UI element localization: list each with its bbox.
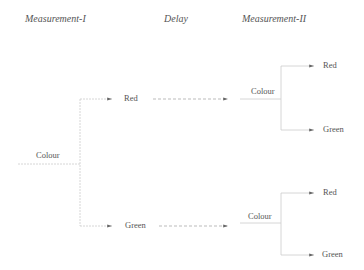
header-measurement-1: Measurement-I — [25, 13, 86, 24]
node-lower-green: Green — [322, 249, 343, 259]
node-root-colour: Colour — [36, 150, 60, 160]
node-lower-red: Red — [323, 187, 337, 197]
tree-diagram-lines — [0, 0, 364, 270]
header-measurement-2: Measurement-II — [242, 13, 306, 24]
node-upper-green: Green — [323, 124, 344, 134]
node-red: Red — [124, 93, 138, 103]
node-lower-colour: Colour — [248, 211, 272, 221]
node-green: Green — [125, 220, 146, 230]
header-delay: Delay — [164, 13, 188, 24]
node-upper-colour: Colour — [251, 86, 275, 96]
node-upper-red: Red — [323, 60, 337, 70]
